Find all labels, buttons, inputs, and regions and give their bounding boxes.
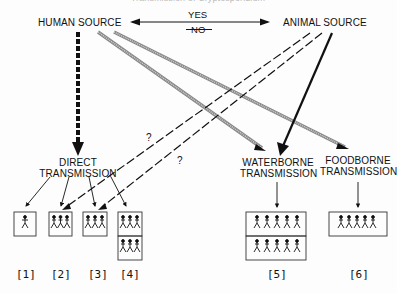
uncertain-mark-1: ? [146,132,152,143]
animal-to-outcome-2-dashed-arrow [62,33,310,210]
diagram-title: Transmission of Cryptosporidium [118,0,278,4]
route-to-outcome-arrows [277,182,358,207]
uncertain-mark-2: ? [177,155,183,166]
outcome-label-4: [4] [120,268,140,281]
animal-to-outcome-3-dashed-arrow [98,33,322,210]
yes-label: YES [188,9,207,20]
person-figures [22,216,376,252]
human-to-direct-arrow [72,32,84,156]
outcome-boxes [14,212,387,260]
human-source-label: HUMAN SOURCE [38,17,121,28]
outcome-label-2: [2] [51,268,71,281]
direct-transmission-label: DIRECT TRANSMISSION [38,157,118,179]
outcome-label-5: [5] [267,268,287,281]
direct-to-outcomes-arrows [26,177,126,206]
waterborne-transmission-label: WATERBORNE TRANSMISSION [240,157,316,179]
no-label: NO [191,24,205,35]
foodborne-transmission-label: FOODBORNE TRANSMISSION [320,155,396,177]
transmission-diagram: Transmission of Cryptosporidium HUMAN SO… [0,0,397,293]
outcome-label-3: [3] [88,268,108,281]
outcome-label-6: [6] [349,268,369,281]
outcome-label-1: [1] [16,268,36,281]
diagram-arrows [0,0,397,293]
human-to-waterborne-arrow [98,32,266,151]
animal-source-label: ANIMAL SOURCE [283,17,367,28]
